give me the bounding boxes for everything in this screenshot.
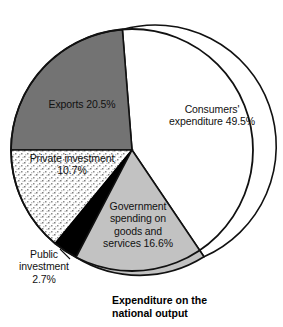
- pie-label-private-investment: Private investment 10.7%: [10, 152, 134, 177]
- pie-slice-exports[interactable]: [11, 30, 132, 150]
- pie-label-consumers-expenditure: Consumers' expenditure 49.5%: [160, 103, 264, 128]
- pie-label-public-investment: Public investment 2.7%: [2, 248, 86, 285]
- chart-caption: Expenditure on the national output: [112, 294, 272, 320]
- pie-label-exports: Exports 20.5%: [28, 98, 136, 110]
- pie-chart-figure: Consumers' expenditure 49.5% Exports 20.…: [0, 0, 283, 327]
- pie-label-government-spending: Government spending on goods and service…: [86, 200, 190, 250]
